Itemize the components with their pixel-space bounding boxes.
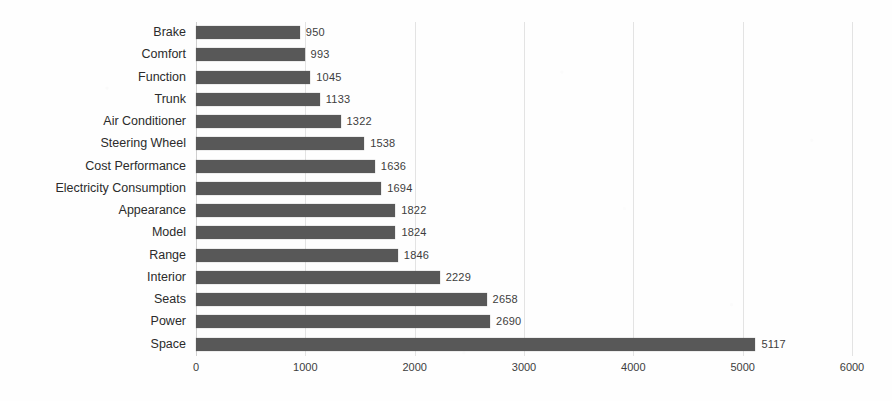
bar-value-label: 1846 xyxy=(404,248,429,262)
bar-row: 1824 xyxy=(196,222,852,244)
bar-row: 1322 xyxy=(196,111,852,133)
bar xyxy=(196,226,395,239)
bar xyxy=(196,293,487,306)
x-axis-tick-label: 1000 xyxy=(293,360,317,374)
x-axis-tick-label: 5000 xyxy=(730,360,754,374)
bar xyxy=(196,249,398,262)
category-label: Electricity Consumption xyxy=(55,181,186,195)
bar-value-label: 2690 xyxy=(496,314,521,328)
bar xyxy=(196,315,490,328)
bar xyxy=(196,160,375,173)
bar-row: 950 xyxy=(196,22,852,44)
bar-value-label: 1045 xyxy=(316,70,341,84)
category-label: Seats xyxy=(154,292,186,306)
bar xyxy=(196,115,341,128)
category-axis-labels: BrakeComfortFunctionTrunkAir Conditioner… xyxy=(0,22,196,356)
bar xyxy=(196,271,440,284)
bar-row: 1133 xyxy=(196,89,852,111)
category-label: Comfort xyxy=(142,47,186,61)
bar xyxy=(196,48,305,61)
x-axis-tick-labels: 0100020003000400050006000 xyxy=(196,360,852,380)
bar xyxy=(196,71,310,84)
x-axis-tick-label: 6000 xyxy=(840,360,864,374)
bar-row: 1538 xyxy=(196,133,852,155)
category-label: Range xyxy=(149,248,186,262)
bar-row: 2690 xyxy=(196,311,852,333)
category-label: Steering Wheel xyxy=(101,136,186,150)
gridline xyxy=(852,22,853,356)
x-axis-tick-label: 0 xyxy=(193,360,199,374)
bar-row: 1846 xyxy=(196,245,852,267)
bar xyxy=(196,26,300,39)
bar xyxy=(196,182,381,195)
category-label: Space xyxy=(151,337,186,351)
category-label: Function xyxy=(138,70,186,84)
bar-value-label: 1822 xyxy=(401,203,426,217)
bar-row: 2658 xyxy=(196,289,852,311)
x-axis-tick-label: 4000 xyxy=(621,360,645,374)
bar-value-label: 1133 xyxy=(326,92,350,106)
bar xyxy=(196,93,320,106)
bar-value-label: 1538 xyxy=(370,136,395,150)
category-label: Trunk xyxy=(155,92,187,106)
category-label: Power xyxy=(151,314,186,328)
bar-row: 993 xyxy=(196,44,852,66)
bar-row: 1694 xyxy=(196,178,852,200)
category-label: Model xyxy=(152,225,186,239)
bar-row: 1822 xyxy=(196,200,852,222)
bar-value-label: 1322 xyxy=(347,114,372,128)
bar-value-label: 950 xyxy=(306,25,325,39)
bar-value-label: 993 xyxy=(311,47,330,61)
bar xyxy=(196,204,395,217)
bar-value-label: 5117 xyxy=(761,337,785,351)
bar-value-label: 2658 xyxy=(493,292,518,306)
bar xyxy=(196,338,755,351)
bar-value-label: 1824 xyxy=(401,225,426,239)
bar-row: 5117 xyxy=(196,334,852,356)
category-label: Appearance xyxy=(119,203,186,217)
bar-value-label: 1694 xyxy=(387,181,412,195)
bar-row: 2229 xyxy=(196,267,852,289)
category-label: Interior xyxy=(147,270,186,284)
bar xyxy=(196,137,364,150)
category-label: Cost Performance xyxy=(85,159,186,173)
bar-chart: BrakeComfortFunctionTrunkAir Conditioner… xyxy=(0,0,892,401)
bar-value-label: 1636 xyxy=(381,159,406,173)
bar-row: 1636 xyxy=(196,156,852,178)
category-label: Brake xyxy=(153,25,186,39)
bar-value-label: 2229 xyxy=(446,270,471,284)
x-axis-tick-label: 3000 xyxy=(512,360,536,374)
plot-area: 9509931045113313221538163616941822182418… xyxy=(196,22,852,356)
category-label: Air Conditioner xyxy=(103,114,186,128)
bar-row: 1045 xyxy=(196,67,852,89)
x-axis-tick-label: 2000 xyxy=(402,360,426,374)
